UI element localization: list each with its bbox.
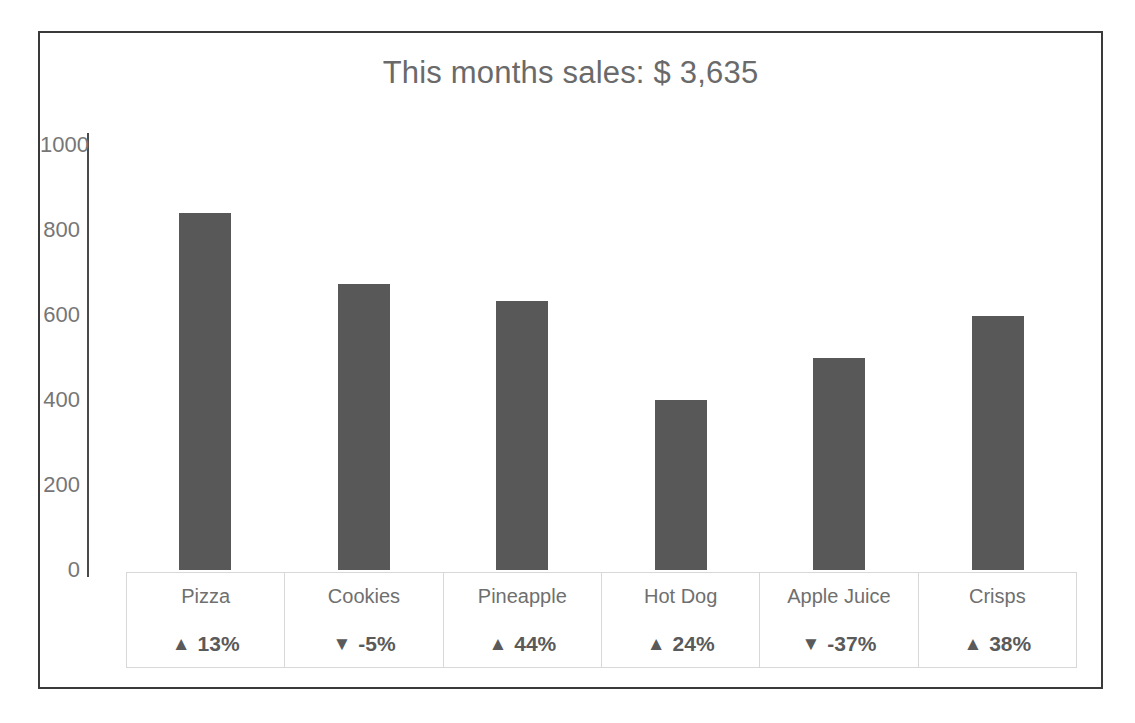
table-column-crisps: Crisps▲38% — [919, 573, 1076, 667]
delta-cell: ▲44% — [444, 620, 601, 667]
triangle-up-icon: ▲ — [488, 634, 507, 653]
triangle-up-icon: ▲ — [963, 634, 982, 653]
table-column-pineapple: Pineapple▲44% — [444, 573, 602, 667]
triangle-up-icon: ▲ — [172, 634, 191, 653]
table-column-pizza: Pizza▲13% — [127, 573, 285, 667]
category-label: Apple Juice — [760, 573, 917, 620]
delta-value: 44% — [514, 632, 556, 656]
bar-pizza[interactable] — [179, 213, 231, 570]
bar-pineapple[interactable] — [496, 301, 548, 570]
table-column-hot-dog: Hot Dog▲24% — [602, 573, 760, 667]
bar-chart-container[interactable]: This months sales: $ 3,635 0200400600800… — [38, 31, 1103, 689]
table-column-apple-juice: Apple Juice▼-37% — [760, 573, 918, 667]
category-label: Pizza — [127, 573, 284, 620]
triangle-down-icon: ▼ — [802, 634, 821, 653]
category-label: Hot Dog — [602, 573, 759, 620]
category-label: Pineapple — [444, 573, 601, 620]
delta-value: -5% — [358, 632, 395, 656]
delta-value: 13% — [198, 632, 240, 656]
delta-value: 24% — [673, 632, 715, 656]
bar-cookies[interactable] — [338, 284, 390, 570]
table-column-cookies: Cookies▼-5% — [285, 573, 443, 667]
bar-hot-dog[interactable] — [655, 400, 707, 570]
delta-cell: ▼-5% — [285, 620, 442, 667]
delta-value: 38% — [989, 632, 1031, 656]
category-label: Cookies — [285, 573, 442, 620]
delta-cell: ▼-37% — [760, 620, 917, 667]
triangle-up-icon: ▲ — [647, 634, 666, 653]
delta-cell: ▲13% — [127, 620, 284, 667]
delta-value: -37% — [827, 632, 876, 656]
triangle-down-icon: ▼ — [332, 634, 351, 653]
delta-cell: ▲24% — [602, 620, 759, 667]
chart-data-table: Pizza▲13%Cookies▼-5%Pineapple▲44%Hot Dog… — [126, 572, 1077, 668]
bar-crisps[interactable] — [972, 316, 1024, 570]
delta-cell: ▲38% — [919, 620, 1076, 667]
category-label: Crisps — [919, 573, 1076, 620]
bar-apple-juice[interactable] — [813, 358, 865, 571]
